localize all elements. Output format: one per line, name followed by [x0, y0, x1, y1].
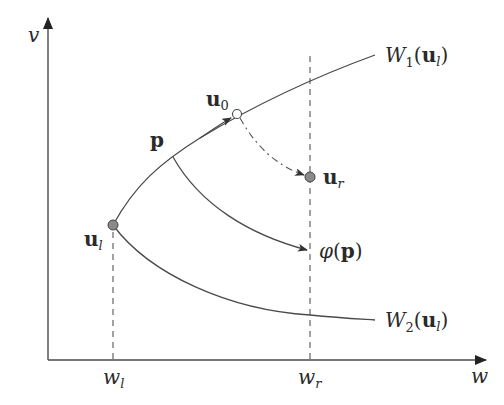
point-u0: [233, 110, 242, 119]
v-axis-label: v: [28, 23, 40, 47]
svg-text:wr: wr: [298, 365, 322, 391]
w-axis-label: w: [471, 364, 488, 388]
svg-text:ul: ul: [84, 227, 103, 253]
label-ul: ul: [84, 227, 103, 253]
svg-text:u0: u0: [206, 87, 229, 113]
point-ul: [108, 220, 118, 230]
label-u0: u0: [206, 87, 229, 113]
svg-text:p: p: [150, 128, 164, 152]
phi-map-arrow: [173, 157, 307, 250]
label-w1: W1(ul): [385, 43, 448, 70]
w1-direction-arrow: [200, 118, 231, 138]
svg-text:φ(p): φ(p): [319, 239, 363, 263]
label-w2: W2(ul): [385, 308, 448, 335]
svg-text:wl: wl: [103, 365, 124, 391]
u0-to-ur-arrow: [240, 118, 304, 175]
tick-label-wl: wl: [103, 365, 124, 391]
label-phi-p: φ(p): [319, 239, 363, 263]
svg-text:W2(ul): W2(ul): [385, 308, 448, 335]
svg-text:ur: ur: [323, 165, 345, 191]
tick-label-wr: wr: [298, 365, 322, 391]
svg-text:W1(ul): W1(ul): [385, 43, 448, 70]
point-ur: [305, 172, 315, 182]
phase-plane-diagram: v w W1(ul) W2(ul) u0 p ur ul φ(p) wl wr: [0, 0, 504, 405]
label-p: p: [150, 128, 164, 152]
label-ur: ur: [323, 165, 345, 191]
